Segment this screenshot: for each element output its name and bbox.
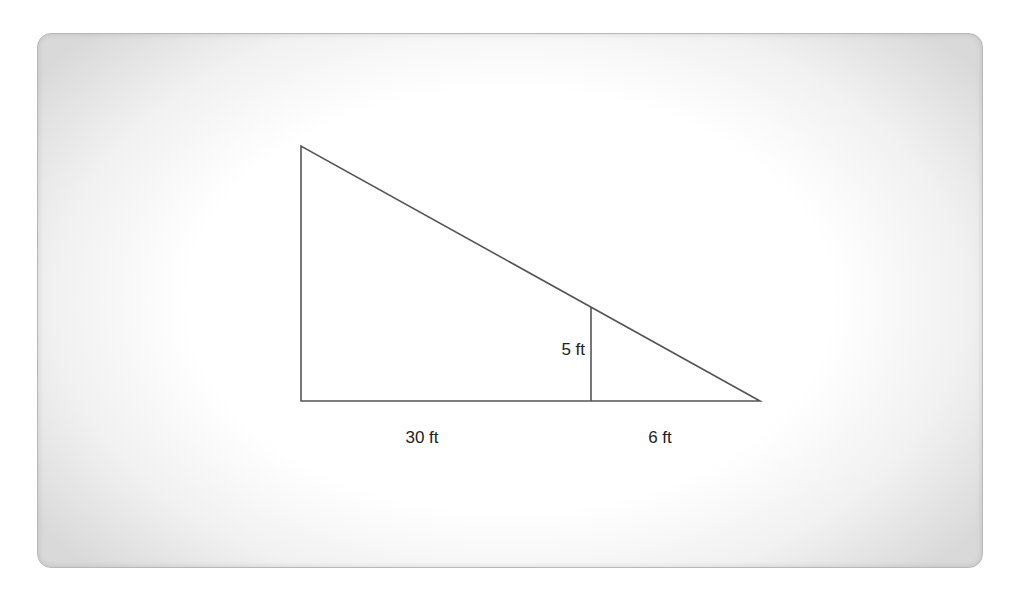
large-right-triangle — [301, 146, 760, 401]
triangle-diagram: 5 ft 30 ft 6 ft — [0, 0, 1018, 593]
label-left-base: 30 ft — [405, 428, 438, 447]
label-right-base: 6 ft — [648, 428, 672, 447]
label-inner-height: 5 ft — [561, 340, 585, 359]
